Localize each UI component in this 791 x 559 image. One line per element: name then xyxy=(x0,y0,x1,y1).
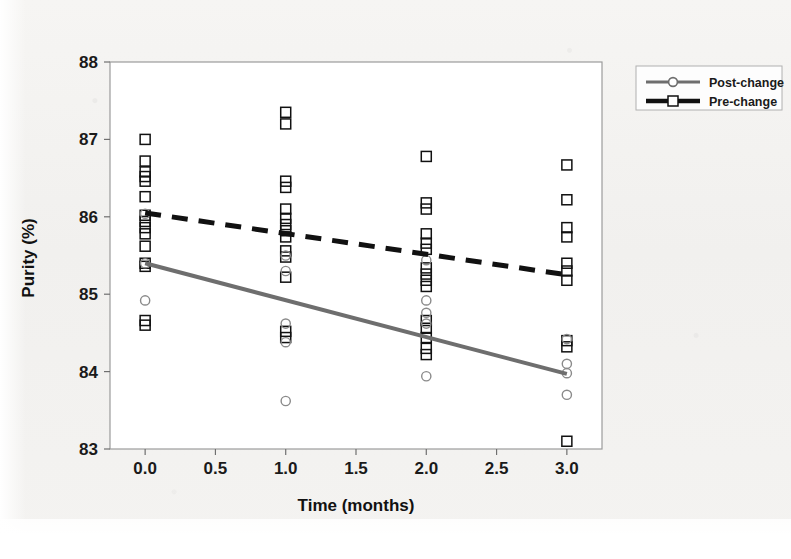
x-tick-label: 2.0 xyxy=(414,459,438,478)
figure-page: 838485868788 0.00.51.01.52.02.53.0 Time … xyxy=(0,0,791,559)
legend-label: Pre-change xyxy=(709,95,777,109)
x-tick-label: 1.0 xyxy=(274,459,298,478)
legend-marker-circle xyxy=(669,78,678,87)
x-axis: 0.00.51.01.52.02.53.0 xyxy=(133,449,578,478)
y-axis-title: Purity (%) xyxy=(19,218,38,297)
x-tick-label: 1.5 xyxy=(344,459,368,478)
y-tick-label: 88 xyxy=(79,53,98,72)
y-tick-label: 86 xyxy=(79,208,98,227)
y-tick-label: 83 xyxy=(79,440,98,459)
plot-area xyxy=(110,62,602,449)
x-tick-label: 0.5 xyxy=(204,459,228,478)
x-tick-label: 0.0 xyxy=(133,459,157,478)
legend-label: Post-change xyxy=(709,76,784,90)
purity-scatter-chart: 838485868788 0.00.51.01.52.02.53.0 Time … xyxy=(0,0,791,559)
chart-legend: Post-changePre-change xyxy=(636,66,784,110)
x-axis-title: Time (months) xyxy=(298,496,415,515)
y-tick-label: 87 xyxy=(79,130,98,149)
x-tick-label: 3.0 xyxy=(555,459,579,478)
y-axis: 838485868788 xyxy=(79,53,110,459)
x-tick-label: 2.5 xyxy=(485,459,509,478)
y-tick-label: 85 xyxy=(79,285,98,304)
legend-marker-square xyxy=(668,96,678,106)
y-tick-label: 84 xyxy=(79,363,98,382)
